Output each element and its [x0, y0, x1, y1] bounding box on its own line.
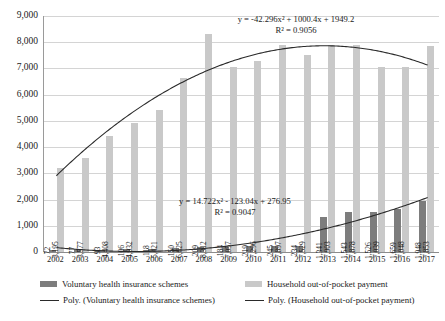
y-axis-tick-label: 9,000	[0, 11, 38, 21]
bar-household: 7,897	[279, 45, 286, 252]
x-axis-tick-label: 2017	[414, 255, 439, 265]
y-axis-tick-label: 8,000	[0, 37, 38, 47]
voluntary-equation-annotation: y = 14.722x² - 123.04x + 276.95 R² = 0.9…	[135, 196, 335, 217]
bar-group: 723,195	[44, 16, 69, 252]
y-axis-tick-label: 1,000	[0, 221, 38, 231]
bar-household: 7,057	[230, 67, 237, 252]
line-swatch-icon	[245, 300, 264, 301]
x-axis-tick-label: 2004	[93, 255, 118, 265]
legend-row-bars: Voluntary health insurance schemes House…	[40, 276, 440, 292]
x-axis-tick-label: 2009	[216, 255, 241, 265]
legend-item-poly-household: Poly. (Household out-of-pocket payment)	[245, 295, 415, 305]
x-axis-tick-label: 2011	[266, 255, 291, 265]
bar-group: 934,408	[93, 16, 118, 252]
y-axis-tick-label: 6,000	[0, 90, 38, 100]
bar-group: 773,577	[69, 16, 94, 252]
x-axis-tick-label: 2006	[142, 255, 167, 265]
legend-label-voluntary: Voluntary health insurance schemes	[62, 279, 188, 289]
x-axis-tick-label: 2012	[291, 255, 316, 265]
bar-household: 3,195	[57, 168, 64, 252]
x-axis-tick-label: 2005	[117, 255, 142, 265]
bar-group: 1,5437,878	[340, 16, 365, 252]
y-axis-tick-label: 0	[0, 247, 38, 257]
legend-label-household: Household out-of-pocket payment	[267, 279, 388, 289]
bar-dark-swatch-icon	[40, 281, 57, 287]
voluntary-equation-text: y = 14.722x² - 123.04x + 276.95	[135, 196, 335, 207]
y-axis-tick-label: 3,000	[0, 168, 38, 178]
bar-group: 1,9487,853	[414, 16, 439, 252]
legend-label-poly-household: Poly. (Household out-of-pocket payment)	[268, 295, 415, 305]
bar-group: 1,6597,048	[390, 16, 415, 252]
household-equation-annotation: y = -42.296x² + 1000.4x + 1949.2 R² = 0.…	[196, 14, 396, 35]
voluntary-r2-text: R² = 0.9047	[135, 207, 335, 218]
bar-household: 7,853	[427, 46, 434, 252]
x-axis-tick-label: 2007	[167, 255, 192, 265]
bar-household: 6,625	[180, 78, 187, 252]
legend-item-voluntary: Voluntary health insurance schemes	[40, 279, 245, 289]
bar-group: 1,5267,039	[365, 16, 390, 252]
y-axis-tick-label: 7,000	[0, 63, 38, 73]
legend-label-poly-voluntary: Poly. (Voluntary health insurance scheme…	[63, 295, 215, 305]
y-axis-tick-label: 5,000	[0, 116, 38, 126]
chart-legend: Voluntary health insurance schemes House…	[40, 276, 440, 308]
x-axis-tick-label: 2014	[340, 255, 365, 265]
y-axis-tick-label: 2,000	[0, 195, 38, 205]
x-axis-tick-label: 2002	[43, 255, 68, 265]
bar-light-swatch-icon	[245, 281, 262, 287]
household-equation-text: y = -42.296x² + 1000.4x + 1949.2	[196, 14, 396, 25]
bar-household: 7,903	[328, 45, 335, 252]
bar-household: 7,039	[378, 67, 385, 252]
y-axis-tick-label: 4,000	[0, 142, 38, 152]
legend-item-household: Household out-of-pocket payment	[245, 279, 388, 289]
x-axis-tick-label: 2013	[315, 255, 340, 265]
x-axis-labels: 2002200320042005200620072008200920102011…	[43, 255, 439, 265]
bar-household: 4,932	[131, 123, 138, 252]
bar-household: 8,312	[205, 34, 212, 252]
bar-household: 7,878	[353, 45, 360, 252]
x-axis-tick-label: 2010	[241, 255, 266, 265]
line-swatch-icon	[40, 300, 59, 301]
bar-household: 5,421	[156, 110, 163, 252]
bar-household: 7,529	[304, 55, 311, 252]
x-axis-tick-label: 2016	[390, 255, 415, 265]
x-axis-tick-label: 2015	[365, 255, 390, 265]
x-axis-tick-label: 2008	[192, 255, 217, 265]
legend-item-poly-voluntary: Poly. (Voluntary health insurance scheme…	[40, 295, 245, 305]
legend-row-trendlines: Poly. (Voluntary health insurance scheme…	[40, 292, 440, 308]
x-axis-tick-label: 2003	[68, 255, 93, 265]
bar-household: 3,577	[82, 158, 89, 252]
chart-container: 9,0008,0007,0006,0005,0004,0003,0002,000…	[0, 0, 445, 321]
household-r2-text: R² = 0.9056	[196, 25, 396, 36]
bar-household: 4,408	[106, 136, 113, 252]
bar-household: 7,296	[254, 61, 261, 252]
bar-household: 7,048	[402, 67, 409, 252]
